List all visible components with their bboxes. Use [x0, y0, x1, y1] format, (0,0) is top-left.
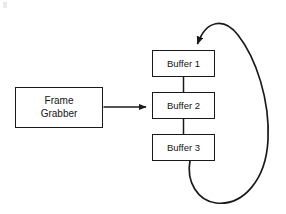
node-frame-grabber-label: Frame Grabber: [41, 95, 78, 119]
node-buffer-1-label: Buffer 1: [167, 58, 200, 70]
node-buffer-3-label: Buffer 3: [167, 142, 200, 154]
node-buffer-2-label: Buffer 2: [167, 100, 200, 112]
diagram-canvas: Frame Grabber Buffer 1 Buffer 2 Buffer 3: [0, 0, 286, 214]
node-buffer-3[interactable]: Buffer 3: [152, 134, 215, 161]
node-buffer-2[interactable]: Buffer 2: [152, 92, 215, 119]
node-buffer-1[interactable]: Buffer 1: [152, 50, 215, 77]
node-frame-grabber[interactable]: Frame Grabber: [15, 87, 103, 128]
